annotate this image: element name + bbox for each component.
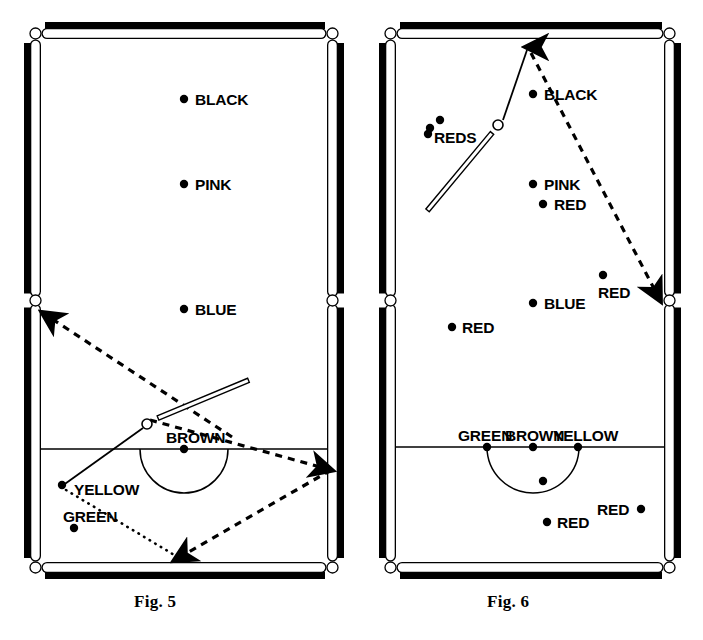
pocket-middle-right[interactable]: [664, 295, 675, 306]
ball-label-red-left: RED: [462, 319, 494, 336]
cushion-bar-bottom: [400, 572, 662, 579]
ball-black-spot[interactable]: [529, 90, 537, 98]
ball-label-pink-spot: PINK: [195, 176, 232, 193]
pocket-top-right[interactable]: [327, 28, 338, 39]
baulk-d-arc: [487, 447, 579, 493]
cushion-bar-top: [400, 22, 662, 29]
cushion-bar-left-top: [379, 43, 386, 294]
pocket-bottom-left[interactable]: [30, 562, 41, 573]
ball-black-spot[interactable]: [180, 95, 188, 103]
ball-red-left[interactable]: [448, 323, 456, 331]
cushion-bar-right-bottom: [337, 308, 344, 559]
aim-line: [503, 50, 527, 120]
ball-red-cluster-1[interactable]: [436, 116, 444, 124]
ball-label-yellow-spot: YELLOW: [553, 427, 619, 444]
trajectory-rebound-path: [175, 470, 331, 560]
trajectory-cue-path-to-middle-pocket: [43, 313, 232, 437]
cushion-bar-bottom: [45, 572, 325, 579]
ball-ball-in-d[interactable]: [539, 477, 547, 485]
figure-caption-5: Fig. 5: [134, 592, 176, 612]
cushion-bar-right-top: [674, 43, 681, 294]
ball-label-red-near-pink: RED: [554, 196, 586, 213]
ball-blue-spot[interactable]: [180, 305, 188, 313]
pocket-bottom-right[interactable]: [327, 562, 338, 573]
pocket-bottom-left[interactable]: [385, 562, 396, 573]
aim-line: [62, 428, 143, 486]
ball-red-bottom[interactable]: [543, 518, 551, 526]
cushion-bar-left-bottom: [24, 308, 31, 559]
ball-yellow-spot[interactable]: [58, 481, 66, 489]
cushion-bar-right-top: [337, 43, 344, 294]
cushion-bar-left-top: [24, 43, 31, 294]
ball-label-blue-spot: BLUE: [544, 295, 585, 312]
cue-ball[interactable]: [493, 120, 503, 130]
ball-pink-spot[interactable]: [180, 180, 188, 188]
ball-label-yellow-spot: YELLOW: [74, 481, 140, 498]
cushion-bar-top: [45, 22, 325, 29]
ball-red-bottom-right[interactable]: [637, 505, 645, 513]
cue-stick[interactable]: [157, 378, 249, 420]
ball-brown-spot[interactable]: [180, 445, 188, 453]
pocket-top-right[interactable]: [664, 28, 675, 39]
ball-label-black-spot: BLACK: [195, 91, 249, 108]
ball-blue-spot[interactable]: [529, 299, 537, 307]
ball-brown-spot[interactable]: [529, 443, 537, 451]
pocket-bottom-right[interactable]: [664, 562, 675, 573]
ball-label-brown-spot: BROWN: [166, 429, 225, 446]
ball-red-cluster-3[interactable]: [424, 130, 432, 138]
ball-label-green-spot: GREEN: [63, 508, 117, 525]
ball-label-blue-spot: BLUE: [195, 301, 236, 318]
ball-label-black-spot: BLACK: [544, 86, 598, 103]
ball-pink-spot[interactable]: [529, 180, 537, 188]
ball-label-red-bottom-right: RED: [597, 501, 629, 518]
pocket-top-left[interactable]: [385, 28, 396, 39]
ball-red-right[interactable]: [599, 271, 607, 279]
cushion-bar-right-bottom: [674, 308, 681, 559]
ball-green-spot[interactable]: [70, 524, 78, 532]
pocket-middle-left[interactable]: [30, 295, 41, 306]
ball-yellow-spot[interactable]: [574, 443, 582, 451]
figure-fig5: BLACKPINKBLUEBROWNYELLOWGREEN: [24, 22, 344, 579]
ball-green-spot[interactable]: [483, 443, 491, 451]
ball-label-red-bottom: RED: [557, 514, 589, 531]
pocket-top-left[interactable]: [30, 28, 41, 39]
diagram-canvas: BLACKPINKBLUEBROWNYELLOWGREENBLACKREDSPI…: [0, 0, 703, 640]
ball-label-red-right: RED: [598, 284, 630, 301]
ball-label-green-spot: GREEN: [458, 427, 512, 444]
pocket-middle-right[interactable]: [327, 295, 338, 306]
figure-caption-6: Fig. 6: [487, 592, 529, 612]
pocket-middle-left[interactable]: [385, 295, 396, 306]
snooker-table-fig5: [24, 22, 344, 579]
ball-label-pink-spot: PINK: [544, 176, 581, 193]
ball-label-red-cluster-3: REDS: [434, 129, 476, 146]
baulk-d-arc: [140, 449, 228, 493]
figure-fig6: BLACKREDSPINKREDREDBLUEREDGREENBROWNYELL…: [379, 22, 681, 579]
cue-ball[interactable]: [142, 419, 152, 429]
cushion-bar-left-bottom: [379, 308, 386, 559]
trajectory-yellow-return-path: [66, 490, 186, 562]
ball-red-near-pink[interactable]: [539, 200, 547, 208]
snooker-diagrams-svg: BLACKPINKBLUEBROWNYELLOWGREENBLACKREDSPI…: [0, 0, 703, 640]
